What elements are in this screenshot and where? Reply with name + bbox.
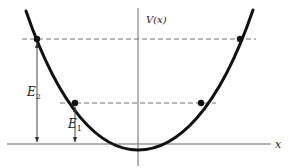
- turning-point-e1-right: [198, 100, 204, 106]
- e1-label: E1: [67, 117, 82, 133]
- turning-point-e2-right: [237, 36, 243, 42]
- potential-curve: [26, 10, 253, 150]
- x-axis-label: x: [275, 138, 282, 151]
- e1-label-sub: 1: [77, 124, 82, 133]
- e2-label: E2: [26, 85, 41, 101]
- e2-label-sub: 2: [36, 92, 41, 101]
- e2-label-main: E: [26, 85, 36, 99]
- turning-point-e2-left: [34, 36, 40, 42]
- e1-label-main: E: [67, 117, 77, 131]
- potential-well-diagram: V(x) x E2 E1: [0, 0, 290, 168]
- v-axis-label: V(x): [146, 14, 167, 25]
- turning-point-e1-left: [72, 100, 78, 106]
